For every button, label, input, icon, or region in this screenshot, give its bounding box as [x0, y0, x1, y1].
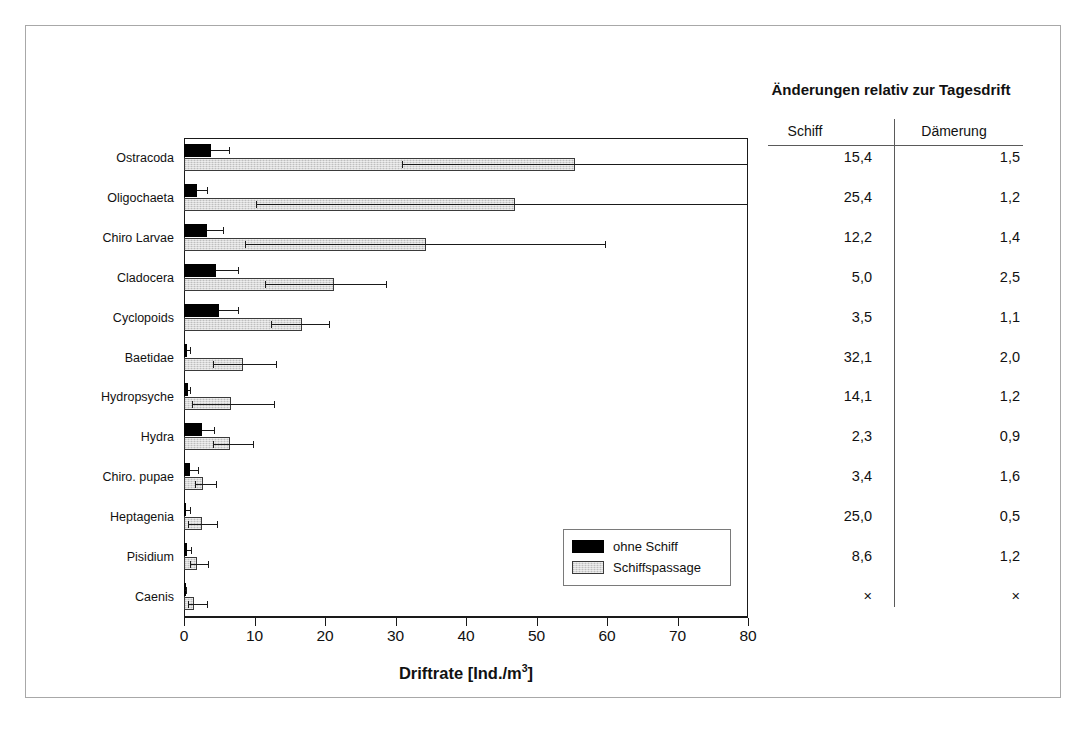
error-bar-lower-schiffspassage [213, 444, 230, 445]
x-axis-tick-label: 60 [598, 628, 615, 644]
table-cell-schiff: 32,1 [740, 349, 872, 365]
error-bar-ohne-schiff [216, 270, 237, 271]
category-label: Heptagenia [50, 511, 174, 524]
legend-item-ohne-schiff: ohne Schiff [572, 536, 722, 557]
bar-ohne-schiff [184, 144, 211, 157]
error-cap-ohne-schiff [238, 267, 239, 274]
category-label: Chiro. pupae [50, 471, 174, 484]
table-cell-schiff: 3,4 [740, 468, 872, 484]
category-label: Cladocera [50, 272, 174, 285]
x-axis-tick-label: 40 [457, 628, 474, 644]
error-cap-ohne-schiff [238, 307, 239, 314]
error-bar-lower-schiffspassage [271, 324, 302, 325]
legend-item-schiffspassage: Schiffspassage [572, 557, 722, 578]
table-cell-schiff: 12,2 [740, 229, 872, 245]
error-bar-ohne-schiff [197, 190, 206, 191]
error-cap-upper-schiffspassage [253, 441, 254, 448]
error-cap-ohne-schiff [190, 387, 191, 394]
error-cap-lower-schiffspassage [213, 441, 214, 448]
error-cap-ohne-schiff [207, 187, 208, 194]
column-header-schiff: Schiff [740, 123, 870, 139]
error-bar-upper-schiffspassage [243, 364, 277, 365]
table-cell-schiff: 25,4 [740, 189, 872, 205]
error-bar-lower-schiffspassage [188, 524, 202, 525]
x-axis-title-main: Driftrate [Ind./m [399, 664, 522, 682]
table-cell-daemerung: × [902, 588, 1020, 604]
error-cap-lower-schiffspassage [188, 521, 189, 528]
category-label: Caenis [50, 591, 174, 604]
error-cap-upper-schiffspassage [208, 561, 209, 568]
error-cap-lower-schiffspassage [213, 361, 214, 368]
category-axis-labels: OstracodaOligochaetaChiro LarvaeCladocer… [54, 138, 178, 617]
x-axis-tick-label: 50 [528, 628, 545, 644]
error-bar-ohne-schiff [211, 150, 229, 151]
bar-ohne-schiff [184, 423, 202, 436]
category-label: Baetidae [50, 352, 174, 365]
error-cap-lower-schiffspassage [245, 241, 246, 248]
x-axis-title: Driftrate [Ind./m3] [184, 662, 748, 683]
figure-frame: OstracodaOligochaetaChiro LarvaeCladocer… [25, 25, 1061, 698]
error-cap-upper-schiffspassage [216, 481, 217, 488]
error-cap-lower-schiffspassage [195, 481, 196, 488]
error-cap-upper-schiffspassage [386, 281, 387, 288]
x-axis: 01020304050607080 [184, 617, 748, 619]
x-axis-tick-label: 0 [180, 628, 189, 644]
x-axis-tick [466, 618, 467, 626]
legend-swatch-light [572, 561, 604, 574]
bar-ohne-schiff [184, 184, 197, 197]
error-cap-ohne-schiff [198, 467, 199, 474]
x-axis-tick-label: 20 [316, 628, 333, 644]
legend-swatch-dark [572, 540, 604, 553]
bar-ohne-schiff [184, 304, 219, 317]
error-bar-ohne-schiff [219, 310, 238, 311]
x-axis-tick-label: 80 [739, 628, 756, 644]
table-cell-schiff: 5,0 [740, 269, 872, 285]
table-cell-daemerung: 1,4 [902, 229, 1020, 245]
x-axis-tick [607, 618, 608, 626]
table-column-divider [894, 119, 895, 607]
error-bar-lower-schiffspassage [402, 164, 575, 165]
error-bar-ohne-schiff [202, 430, 213, 431]
error-bar-ohne-schiff [207, 230, 224, 231]
table-cell-daemerung: 0,5 [902, 508, 1020, 524]
x-axis-tick [396, 618, 397, 626]
error-cap-ohne-schiff [223, 227, 224, 234]
error-cap-upper-schiffspassage [217, 521, 218, 528]
table-cell-daemerung: 1,1 [902, 309, 1020, 325]
error-cap-lower-schiffspassage [190, 561, 191, 568]
error-cap-ohne-schiff [214, 427, 215, 434]
table-cell-daemerung: 1,5 [902, 149, 1020, 165]
x-axis-tick-label: 10 [246, 628, 263, 644]
error-bar-upper-schiffspassage [334, 284, 387, 285]
legend-label-schiffspassage: Schiffspassage [613, 560, 701, 575]
x-axis-tick-label: 30 [387, 628, 404, 644]
table-cell-schiff: 14,1 [740, 388, 872, 404]
category-label: Hydropsyche [50, 391, 174, 404]
legend-label-ohne-schiff: ohne Schiff [613, 539, 678, 554]
error-bar-lower-schiffspassage [245, 244, 426, 245]
category-label: Cyclopoids [50, 312, 174, 325]
table-cell-schiff: 8,6 [740, 548, 872, 564]
error-cap-lower-schiffspassage [192, 401, 193, 408]
error-bar-lower-schiffspassage [265, 284, 334, 285]
x-axis-title-tail: ] [528, 664, 534, 682]
category-label: Chiro Larvae [50, 232, 174, 245]
error-bar-upper-schiffspassage [202, 524, 218, 525]
x-axis-tick [537, 618, 538, 626]
x-axis-tick-label: 70 [669, 628, 686, 644]
table-header-rule [768, 145, 1023, 146]
error-cap-lower-schiffspassage [256, 201, 257, 208]
table-cell-daemerung: 2,5 [902, 269, 1020, 285]
table-cell-daemerung: 1,2 [902, 548, 1020, 564]
table-cell-schiff: 15,4 [740, 149, 872, 165]
error-bar-lower-schiffspassage [256, 204, 515, 205]
error-bar-lower-schiffspassage [213, 364, 243, 365]
error-cap-upper-schiffspassage [207, 601, 208, 608]
error-bar-upper-schiffspassage [194, 604, 208, 605]
category-label: Hydra [50, 431, 174, 444]
error-bar-lower-schiffspassage [192, 404, 231, 405]
category-label: Pisidium [50, 551, 174, 564]
table-cell-schiff: 3,5 [740, 309, 872, 325]
table-cell-daemerung: 1,2 [902, 388, 1020, 404]
error-cap-upper-schiffspassage [605, 241, 606, 248]
